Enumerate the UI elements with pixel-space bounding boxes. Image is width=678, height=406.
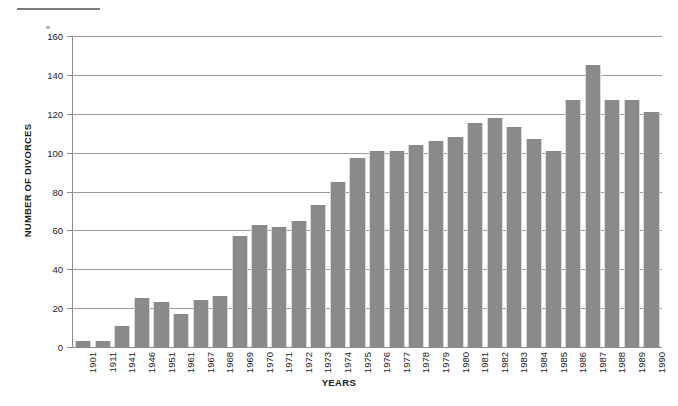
y-tick-label: 40 (52, 264, 63, 275)
divorces-bar-chart-figure: NUMBER OF DIVORCES YEARS 020406080100120… (0, 0, 678, 406)
x-tick-label: 1946 (146, 352, 157, 373)
x-tick-label: 1986 (577, 352, 588, 373)
y-tick-label: 100 (47, 147, 63, 158)
bar (506, 127, 522, 347)
bar (467, 123, 483, 347)
bar (565, 100, 581, 347)
bar (643, 112, 659, 347)
x-tick-label: 1988 (616, 352, 627, 373)
x-tick-label: 1983 (518, 352, 529, 373)
y-tick-label: 0 (58, 342, 63, 353)
y-axis-tick (67, 308, 72, 309)
bar (545, 151, 561, 347)
x-tick-label: 1978 (420, 352, 431, 373)
bar (153, 302, 169, 347)
bar (271, 227, 287, 348)
x-tick-label: 1961 (185, 352, 196, 373)
x-tick-label: 1968 (224, 352, 235, 373)
x-tick-label: 1973 (322, 352, 333, 373)
x-tick-label: 1984 (538, 352, 549, 373)
y-axis-tick (67, 230, 72, 231)
x-tick-label: 1982 (499, 352, 510, 373)
y-axis-tick (67, 153, 72, 154)
y-tick-label: 60 (52, 225, 63, 236)
bar (389, 151, 405, 347)
x-axis-line (72, 347, 662, 348)
x-tick-label: 1951 (166, 352, 177, 373)
x-tick-label: 1981 (479, 352, 490, 373)
y-axis-tick (67, 347, 72, 348)
bar (232, 236, 248, 347)
y-tick-label: 80 (52, 186, 63, 197)
x-tick-label: 1989 (636, 352, 647, 373)
bar (193, 300, 209, 347)
x-tick-label: 1985 (558, 352, 569, 373)
bar (212, 296, 228, 347)
y-tick-label: 160 (47, 31, 63, 42)
y-axis-tick (67, 36, 72, 37)
x-tick-label: 1967 (205, 352, 216, 373)
x-tick-label: 1990 (656, 352, 667, 373)
bar (369, 151, 385, 347)
y-tick-label: 20 (52, 303, 63, 314)
bar (95, 341, 111, 347)
y-axis-tick (67, 269, 72, 270)
bar (526, 139, 542, 347)
y-tick-label: 120 (47, 108, 63, 119)
bars-group (73, 36, 661, 347)
x-tick-label: 1979 (440, 352, 451, 373)
x-tick-label: 1941 (126, 352, 137, 373)
y-axis-tick (67, 192, 72, 193)
bar (134, 298, 150, 347)
bar (585, 65, 601, 347)
x-tick-label: 1976 (381, 352, 392, 373)
x-tick-label: 1969 (244, 352, 255, 373)
x-tick-label: 1974 (342, 352, 353, 373)
y-axis-tick (67, 75, 72, 76)
x-tick-label: 1980 (460, 352, 471, 373)
bar (428, 141, 444, 347)
x-axis-title: YEARS (0, 377, 678, 388)
plot-area: 020406080100120140160 190119111941194619… (72, 36, 662, 348)
x-tick-label: 1972 (303, 352, 314, 373)
x-tick-label: 1975 (362, 352, 373, 373)
y-axis-title: NUMBER OF DIVORCES (22, 101, 33, 261)
bar (75, 341, 91, 347)
x-tick-label: 1987 (597, 352, 608, 373)
bar (114, 326, 130, 347)
x-tick-label: 1977 (401, 352, 412, 373)
bar (330, 182, 346, 347)
bar (349, 158, 365, 347)
x-tick-label: 1970 (264, 352, 275, 373)
bar (624, 100, 640, 347)
bar (291, 221, 307, 347)
bar (487, 118, 503, 347)
bar (251, 225, 267, 347)
scan-artifact-line (17, 8, 100, 10)
x-tick-label: 1971 (283, 352, 294, 373)
y-axis-tick (67, 114, 72, 115)
bar (604, 100, 620, 347)
x-tick-label: 1901 (87, 352, 98, 373)
bar (447, 137, 463, 347)
bar (408, 145, 424, 347)
x-tick-label: 1911 (107, 352, 118, 372)
bar (310, 205, 326, 347)
scan-artifact-speck (46, 26, 50, 29)
bar (173, 314, 189, 347)
y-tick-label: 140 (47, 69, 63, 80)
